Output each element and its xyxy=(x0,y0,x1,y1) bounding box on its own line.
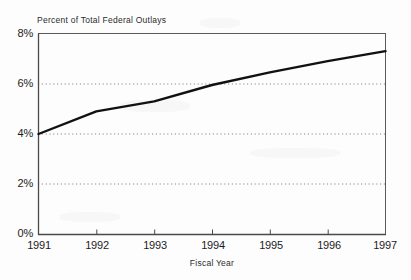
plot-area xyxy=(0,0,411,280)
x-axis-title: Fiscal Year xyxy=(190,258,234,268)
chart-figure: Percent of Total Federal Outlays 8% 6% 4… xyxy=(0,0,411,280)
plot-frame xyxy=(38,34,386,236)
gridlines xyxy=(38,84,386,184)
data-series-line xyxy=(39,51,386,134)
x-axis-ticks xyxy=(97,230,328,235)
